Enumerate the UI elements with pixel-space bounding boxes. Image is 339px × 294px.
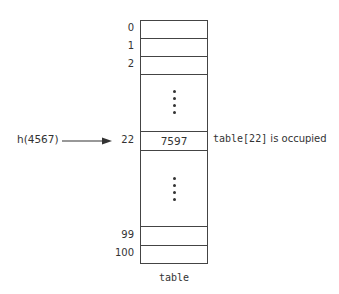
arrow-right-icon: [60, 136, 114, 146]
annotation-text: is occupied: [267, 133, 326, 144]
hash-call-label: h(4567): [17, 133, 59, 145]
table-caption: table: [140, 272, 208, 283]
row-divider: [141, 131, 207, 132]
occupied-annotation: table[22] is occupied: [213, 133, 327, 144]
row-divider: [141, 38, 207, 39]
cell-value-22: 7597: [141, 135, 207, 147]
hash-table: 7597: [140, 20, 208, 264]
row-divider: [141, 74, 207, 75]
index-label-0: 0: [110, 22, 134, 33]
index-label-1: 1: [110, 40, 134, 51]
row-divider: [141, 245, 207, 246]
row-divider: [141, 56, 207, 57]
annotation-code: table[22]: [213, 133, 267, 144]
index-label-99: 99: [110, 229, 134, 240]
index-label-100: 100: [110, 247, 134, 258]
index-label-2: 2: [110, 58, 134, 69]
row-divider: [141, 150, 207, 151]
row-divider: [141, 226, 207, 227]
